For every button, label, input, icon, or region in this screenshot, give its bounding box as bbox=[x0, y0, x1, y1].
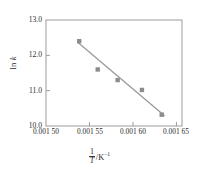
fit-line-segment bbox=[78, 43, 164, 116]
data-point-marker bbox=[77, 39, 81, 43]
tick-marks bbox=[46, 55, 176, 126]
regression-line bbox=[78, 43, 164, 116]
data-point-marker bbox=[96, 67, 100, 71]
data-point-marker bbox=[115, 78, 119, 82]
data-point-marker bbox=[140, 88, 144, 92]
chart-figure: ln k 13.0 12.0 11.0 10.0 0.001 50 0.001 … bbox=[0, 0, 199, 181]
plot-area bbox=[0, 0, 199, 181]
data-point-marker bbox=[160, 112, 164, 116]
